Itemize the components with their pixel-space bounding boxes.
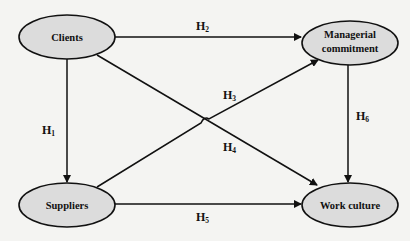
node-suppliers: Suppliers bbox=[19, 183, 115, 227]
node-managerial-label-line2: commitment bbox=[322, 43, 379, 54]
node-managerial-commitment: Managerial commitment bbox=[302, 21, 398, 65]
hypothesis-diagram: Clients Managerial commitment Suppliers … bbox=[0, 0, 410, 241]
edge-h3-suppliers-to-managerial bbox=[97, 60, 318, 187]
node-suppliers-label: Suppliers bbox=[46, 200, 89, 211]
edge-h4-clients-to-work-culture bbox=[97, 55, 317, 185]
node-clients: Clients bbox=[19, 15, 115, 59]
label-h5: H5 bbox=[196, 210, 209, 225]
label-h1: H1 bbox=[42, 123, 55, 138]
node-managerial-label-line1: Managerial bbox=[324, 29, 376, 40]
label-h6: H6 bbox=[356, 109, 369, 124]
label-h3: H3 bbox=[223, 88, 236, 103]
node-work-culture-label: Work culture bbox=[320, 200, 381, 211]
node-clients-label: Clients bbox=[51, 32, 83, 43]
node-work-culture: Work culture bbox=[302, 183, 398, 227]
label-h4: H4 bbox=[223, 140, 236, 155]
label-h2: H2 bbox=[196, 19, 209, 34]
